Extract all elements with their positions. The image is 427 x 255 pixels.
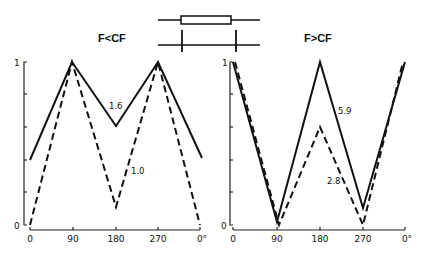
y-tick-label: 1 bbox=[222, 58, 228, 68]
chart-right-title: F>CF bbox=[304, 32, 332, 44]
annotation-dashed: 1.0 bbox=[131, 166, 145, 176]
x-tick-label: 0 bbox=[27, 234, 33, 244]
x-tick-label: 0° bbox=[402, 234, 412, 244]
annotation-dashed: 2.8 bbox=[327, 176, 341, 186]
y-tick-label: 0 bbox=[14, 221, 20, 231]
y-axis bbox=[230, 62, 233, 225]
electrode-schematic bbox=[158, 16, 260, 52]
chart-left: F<CF 1 0 0 90 180 270 0° 1.6 1.0 bbox=[14, 32, 207, 244]
annotation-solid: 1.6 bbox=[109, 101, 123, 111]
chart-right: F>CF 1 0 0 90 180 270 0° 5.9 2.8 bbox=[221, 32, 412, 244]
series-solid-line bbox=[233, 62, 405, 222]
y-tick-label: 0 bbox=[221, 221, 227, 231]
annotation-solid: 5.9 bbox=[338, 106, 352, 116]
x-tick-label: 0 bbox=[230, 234, 236, 244]
x-tick-label: 180 bbox=[107, 234, 124, 244]
x-tick-label: 0° bbox=[197, 234, 207, 244]
y-tick-label: 1 bbox=[14, 58, 20, 68]
figure: F<CF 1 0 0 90 180 270 0° 1.6 1.0 F>CF bbox=[0, 0, 427, 255]
series-dashed-line bbox=[235, 62, 403, 225]
x-tick-label: 180 bbox=[311, 234, 328, 244]
y-axis bbox=[24, 62, 27, 225]
series-dashed-line bbox=[30, 62, 200, 225]
x-tick-label: 90 bbox=[67, 234, 79, 244]
x-tick-label: 270 bbox=[149, 234, 166, 244]
x-tick-label: 270 bbox=[354, 234, 371, 244]
x-tick-label: 90 bbox=[271, 234, 283, 244]
chart-left-title: F<CF bbox=[98, 32, 126, 44]
series-solid-line bbox=[30, 62, 202, 160]
